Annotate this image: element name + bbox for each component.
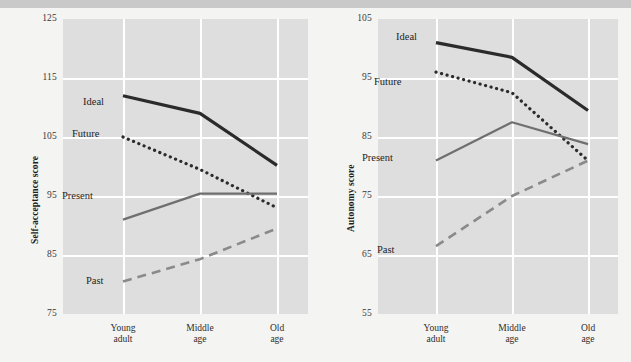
series-label-left-ideal: Ideal bbox=[83, 96, 104, 107]
series-line-past bbox=[123, 228, 277, 281]
x-tick-left-0-line1: Young bbox=[111, 323, 136, 333]
series-line-present bbox=[123, 194, 277, 220]
chart-panel-self-acceptance: Self-acceptance score 125 115 105 95 85 … bbox=[0, 8, 320, 362]
x-tick-left-1: Middle age bbox=[170, 323, 230, 345]
series-label-right-future: Future bbox=[374, 76, 401, 87]
series-label-left-past: Past bbox=[86, 275, 104, 286]
series-lines-left bbox=[0, 8, 320, 362]
x-tick-left-1-line1: Middle bbox=[186, 323, 213, 333]
x-tick-right-2: Old age bbox=[558, 323, 618, 345]
x-tick-right-2-line2: age bbox=[581, 334, 594, 344]
x-tick-left-0: Young adult bbox=[93, 323, 153, 345]
x-tick-left-1-line2: age bbox=[193, 334, 206, 344]
series-line-ideal bbox=[123, 96, 277, 166]
x-tick-right-1-line2: age bbox=[505, 334, 518, 344]
x-tick-right-0: Young adult bbox=[406, 323, 466, 345]
x-tick-right-2-line1: Old bbox=[581, 323, 595, 333]
x-tick-left-2-line2: age bbox=[270, 334, 283, 344]
series-label-left-future: Future bbox=[72, 128, 99, 139]
x-tick-left-2: Old age bbox=[247, 323, 307, 345]
series-lines-right bbox=[320, 8, 631, 362]
series-label-right-present: Present bbox=[362, 152, 393, 163]
figure-page: Self-acceptance score 125 115 105 95 85 … bbox=[0, 8, 631, 362]
x-tick-left-0-line2: adult bbox=[114, 334, 133, 344]
x-tick-right-1-line1: Middle bbox=[498, 323, 525, 333]
series-label-left-present: Present bbox=[62, 190, 93, 201]
x-tick-right-0-line1: Young bbox=[424, 323, 449, 333]
series-line-past bbox=[436, 161, 588, 247]
series-line-future bbox=[436, 72, 588, 161]
series-label-right-past: Past bbox=[377, 244, 395, 255]
x-tick-left-2-line1: Old bbox=[270, 323, 284, 333]
x-tick-right-1: Middle age bbox=[482, 323, 542, 345]
chart-panel-autonomy: Autonomy score 105 95 85 75 65 55 Ideal … bbox=[320, 8, 631, 362]
series-line-present bbox=[436, 122, 588, 160]
series-line-ideal bbox=[436, 43, 588, 111]
series-label-right-ideal: Ideal bbox=[396, 31, 417, 42]
x-tick-right-0-line2: adult bbox=[427, 334, 446, 344]
series-line-future bbox=[123, 137, 277, 208]
top-gray-strip bbox=[0, 0, 631, 8]
